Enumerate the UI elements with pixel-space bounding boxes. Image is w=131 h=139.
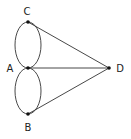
graph-svg: C A B D: [0, 0, 131, 139]
edge-a-c-loop: [15, 22, 41, 68]
node-c: [26, 20, 30, 24]
node-b: [26, 112, 30, 116]
node-label-c: C: [24, 6, 31, 17]
edge-b-d: [28, 68, 109, 114]
edge-a-b-loop: [15, 68, 41, 114]
edge-c-d: [28, 22, 109, 68]
node-d: [107, 66, 111, 70]
node-a: [26, 66, 30, 70]
node-label-b: B: [25, 122, 32, 133]
node-label-d: D: [116, 63, 124, 74]
graph-diagram: C A B D: [0, 0, 131, 139]
node-label-a: A: [7, 63, 14, 74]
